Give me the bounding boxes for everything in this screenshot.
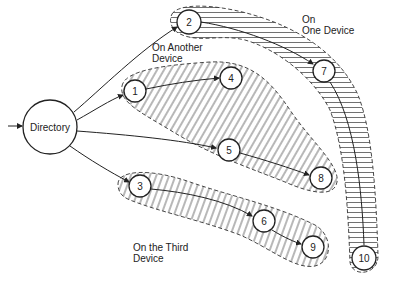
node-2-label: 2 <box>186 17 192 28</box>
node-6: 6 <box>253 210 275 232</box>
node-5: 5 <box>218 139 240 161</box>
node-9: 9 <box>302 236 324 258</box>
diagram-canvas: Directory 1 2 3 4 5 6 7 8 9 10 On One De… <box>0 0 394 281</box>
node-9-label: 9 <box>310 242 316 253</box>
node-7: 7 <box>313 60 335 82</box>
node-4-label: 4 <box>228 73 234 84</box>
node-1-label: 1 <box>132 86 138 97</box>
node-6-label: 6 <box>261 216 267 227</box>
node-10-label: 10 <box>358 253 370 264</box>
label-one-device: On One Device <box>302 14 354 36</box>
node-3-label: 3 <box>137 181 143 192</box>
label-another-device: On Another Device <box>152 42 203 64</box>
node-8-label: 8 <box>318 173 324 184</box>
node-1: 1 <box>124 80 146 102</box>
node-7-label: 7 <box>321 66 327 77</box>
directory-node: Directory <box>23 100 77 154</box>
node-5-label: 5 <box>226 145 232 156</box>
label-third-device: On the Third Device <box>133 242 188 264</box>
node-3: 3 <box>129 175 151 197</box>
node-8: 8 <box>310 167 332 189</box>
directory-label: Directory <box>30 122 70 133</box>
edge-dir-3 <box>70 146 129 182</box>
node-4: 4 <box>220 67 242 89</box>
edge-dir-1 <box>77 95 123 120</box>
node-2: 2 <box>177 10 201 34</box>
node-10: 10 <box>352 246 376 270</box>
